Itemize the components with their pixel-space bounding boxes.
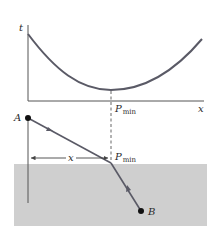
least-time-diagram: t x Pmin A B x Pmin — [0, 0, 220, 232]
point-a — [25, 115, 31, 121]
lower-medium — [14, 164, 207, 226]
y-axis-label: t — [19, 22, 24, 33]
time-graph: t x Pmin — [19, 22, 204, 116]
point-a-label: A — [13, 112, 21, 123]
point-b — [138, 208, 144, 214]
time-curve — [28, 34, 202, 90]
refraction-geometry: A B x Pmin — [13, 112, 207, 226]
point-b-label: B — [147, 206, 155, 217]
refraction-point-label: Pmin — [114, 151, 137, 164]
distance-x-label: x — [68, 152, 74, 163]
graph-min-label: Pmin — [114, 103, 137, 116]
x-axis-label: x — [198, 103, 204, 114]
